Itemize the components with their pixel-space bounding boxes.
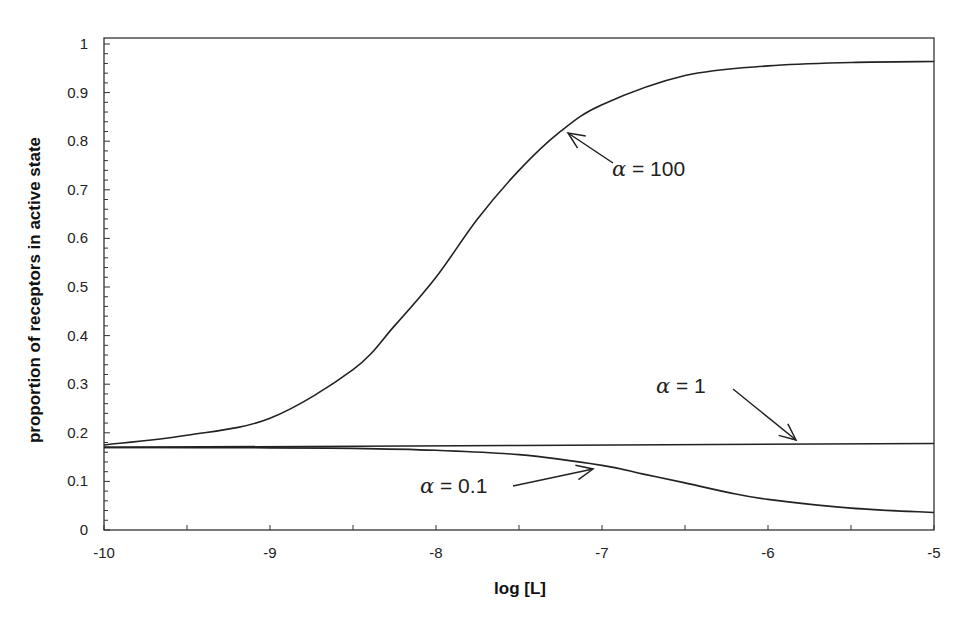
- series-line-alpha-0-1: [104, 447, 934, 512]
- x-tick-label: -10: [93, 544, 115, 561]
- annotations: α = 100α = 1α = 0.1: [420, 133, 796, 498]
- y-axis-label: proportion of receptors in active state: [25, 137, 44, 443]
- x-tick-label: -8: [429, 544, 442, 561]
- plot-frame: [104, 38, 934, 530]
- y-tick-label: 0.2: [67, 424, 88, 441]
- annotation-alpha-0-1: α = 0.1: [420, 474, 487, 498]
- y-tick-label: 1: [80, 35, 88, 52]
- annotation-alpha-0-1-value: = 0.1: [434, 474, 487, 497]
- y-tick-label: 0.9: [67, 84, 88, 101]
- annotation-alpha-100-arrow-shaft: [568, 133, 613, 163]
- y-tick-label: 0: [80, 521, 88, 538]
- annotation-alpha-0-1-alpha-symbol: α: [420, 474, 434, 498]
- y-tick-label: 0.3: [67, 375, 88, 392]
- y-tick-label: 0.7: [67, 181, 88, 198]
- series-line-alpha-100: [104, 61, 934, 444]
- annotation-alpha-100-alpha-symbol: α: [612, 157, 626, 181]
- x-tick-label: -7: [595, 544, 608, 561]
- x-tick-label: -6: [761, 544, 774, 561]
- y-tick-label: 0.4: [67, 327, 88, 344]
- x-tick-label: -5: [927, 544, 940, 561]
- annotation-alpha-100: α = 100: [612, 157, 685, 181]
- annotation-alpha-100-value: = 100: [626, 157, 685, 180]
- y-tick-label: 0.8: [67, 132, 88, 149]
- y-tick-label: 0.1: [67, 472, 88, 489]
- annotation-alpha-1: α = 1: [656, 374, 706, 398]
- series-line-alpha-1: [104, 443, 934, 447]
- data-series: [104, 61, 934, 512]
- annotation-alpha-1-value: = 1: [670, 374, 706, 397]
- y-tick-label: 0.5: [67, 278, 88, 295]
- y-tick-label: 0.6: [67, 229, 88, 246]
- plot-border: [104, 38, 934, 530]
- annotation-alpha-1-arrow-shaft: [733, 389, 796, 440]
- x-tick-label: -9: [263, 544, 276, 561]
- x-axis-label: log [L]: [494, 579, 546, 598]
- annotation-alpha-1-alpha-symbol: α: [656, 374, 670, 398]
- chart: 00.10.20.30.40.50.60.70.80.91 -10-9-8-7-…: [0, 0, 977, 627]
